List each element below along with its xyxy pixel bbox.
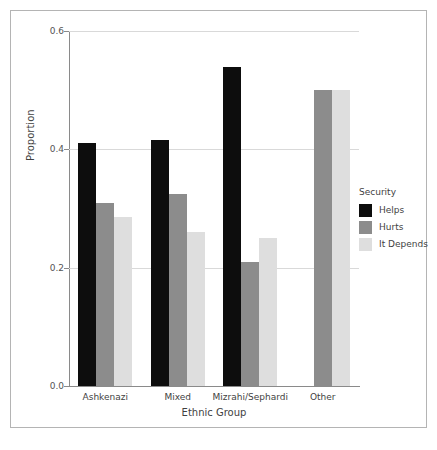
- legend-swatch-icon: [359, 238, 372, 251]
- bar: [114, 217, 132, 386]
- y-axis-title: Proportion: [25, 109, 36, 161]
- legend-items: HelpsHurtsIt Depends: [359, 202, 428, 252]
- bar: [332, 90, 350, 386]
- figure-frame: Proportion 0.00.20.40.6 AshkenaziMixedMi…: [10, 10, 427, 428]
- bar: [151, 140, 169, 386]
- gridline: [69, 31, 359, 32]
- plot-area: [69, 31, 359, 386]
- legend-item-label: It Depends: [379, 239, 428, 249]
- bar: [187, 232, 205, 386]
- legend-swatch-icon: [359, 204, 372, 217]
- legend-item[interactable]: Hurts: [359, 219, 428, 235]
- bar: [223, 67, 241, 387]
- x-tick-label: Mixed: [164, 392, 191, 402]
- y-tick-label: 0.6: [50, 26, 64, 36]
- legend-item-label: Helps: [379, 205, 404, 215]
- legend-item[interactable]: It Depends: [359, 236, 428, 252]
- x-axis-title: Ethnic Group: [69, 407, 359, 418]
- legend-swatch-icon: [359, 221, 372, 234]
- bar: [259, 238, 277, 386]
- bar: [169, 194, 187, 386]
- legend-item-label: Hurts: [379, 222, 403, 232]
- chart-legend: Security HelpsHurtsIt Depends: [359, 187, 428, 253]
- bar: [96, 203, 114, 386]
- y-tick-mark: [64, 386, 69, 387]
- y-tick-label: 0.4: [50, 144, 64, 154]
- y-tick-label: 0.0: [50, 381, 64, 391]
- x-tick-label: Ashkenazi: [83, 392, 128, 402]
- legend-item[interactable]: Helps: [359, 202, 428, 218]
- x-axis-line: [69, 386, 360, 387]
- bar: [241, 262, 259, 386]
- legend-title: Security: [359, 187, 428, 197]
- x-tick-label: Mizrahi/Sephardi: [213, 392, 288, 402]
- bar: [314, 90, 332, 386]
- x-tick-label: Other: [310, 392, 336, 402]
- bar: [78, 143, 96, 386]
- y-tick-label: 0.2: [50, 263, 64, 273]
